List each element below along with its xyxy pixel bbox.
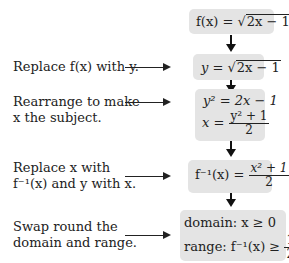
down-arrow-4: [230, 193, 232, 204]
fraction: x² + 1 2: [249, 162, 289, 189]
step-box-domain-range: domain: x ≥ 0 range: f⁻¹(x) ≥ 1 2: [180, 210, 286, 261]
right-arrow-2: [125, 67, 169, 68]
fraction: y² + 1 2: [229, 110, 270, 137]
expression-x-fraction: x = y² + 1 2: [202, 110, 269, 137]
domain-text: domain: x ≥ 0: [184, 215, 276, 230]
numerator: x² + 1: [249, 162, 289, 176]
denominator: 2: [286, 248, 289, 261]
right-arrow-3: [125, 102, 169, 103]
label-swap: Swap round the domain and range.: [13, 219, 137, 251]
right-arrow-5: [125, 235, 169, 236]
numerator: y² + 1: [229, 110, 270, 124]
label-line-1: Replace x with: [13, 160, 136, 176]
step-box-y-equals: y = √2x − 1: [193, 54, 264, 80]
sqrt-arg: 2x − 1: [246, 14, 289, 29]
denominator: 2: [245, 124, 253, 137]
label-replace-fx: Replace f(x) with y.: [13, 59, 139, 75]
denominator: 2: [265, 176, 273, 189]
label-line-1: Swap round the: [13, 219, 137, 235]
label-line-2: x the subject.: [13, 110, 140, 126]
fraction: 1 2: [284, 234, 289, 261]
step-box-inverse: f⁻¹(x) = x² + 1 2: [188, 160, 272, 193]
expression-original: f(x) = √2x − 1: [196, 14, 289, 29]
expr-lhs: x =: [202, 115, 224, 130]
right-arrow-4: [125, 176, 169, 177]
down-arrow-3: [230, 141, 232, 154]
sqrt-arg: 2x − 1: [236, 60, 281, 75]
step-box-original-function: f(x) = √2x − 1: [189, 9, 274, 34]
range-prefix: range: f⁻¹(x) ≥: [184, 239, 280, 254]
expr-eq: =: [222, 14, 233, 29]
label-line-1: Rearrange to make: [13, 94, 140, 110]
step-box-rearrange: y² = 2x − 1 x = y² + 1 2: [195, 89, 265, 141]
label-line-2: domain and range.: [13, 235, 137, 251]
range-text: range: f⁻¹(x) ≥ 1 2: [184, 234, 289, 261]
expr-lhs: f⁻¹(x) =: [195, 167, 244, 182]
label-replace-x: Replace x with f⁻¹(x) and y with x.: [13, 160, 136, 192]
label-line-2: f⁻¹(x) and y with x.: [13, 176, 136, 192]
expression-y: y = √2x − 1: [201, 60, 281, 75]
expr-lhs: y: [201, 60, 208, 75]
down-arrow-1: [230, 35, 232, 49]
numerator: 1: [284, 234, 289, 248]
expr-eq: =: [213, 60, 224, 75]
expr-lhs: f(x): [196, 14, 218, 29]
expression-y-squared: y² = 2x − 1: [203, 93, 278, 108]
label-rearrange: Rearrange to make x the subject.: [13, 94, 140, 126]
expression-inverse: f⁻¹(x) = x² + 1 2: [195, 162, 289, 189]
